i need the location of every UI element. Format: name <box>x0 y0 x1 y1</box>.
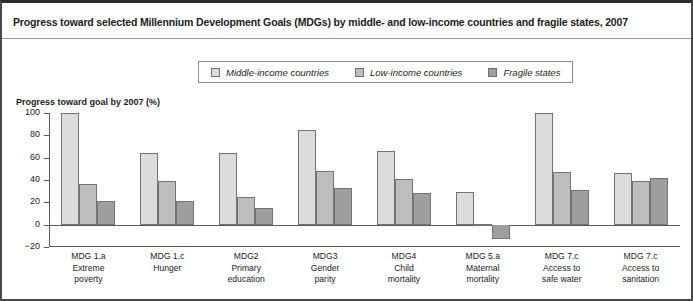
bar-group <box>443 113 522 247</box>
bar <box>571 190 589 225</box>
bar-slot <box>456 113 474 247</box>
legend-label-low-income: Low-income countries <box>370 67 462 78</box>
bar-slot <box>176 113 194 247</box>
category-label-line: mortality <box>365 274 444 286</box>
bar-slot <box>553 113 571 247</box>
y-tick-label: −20 <box>25 241 40 251</box>
bar-slot <box>255 113 273 247</box>
bar-slot <box>61 113 79 247</box>
y-tick: 60 <box>3 158 49 159</box>
bar-slot <box>79 113 97 247</box>
category-label-line: Maternal <box>443 263 522 275</box>
bar <box>614 173 632 224</box>
legend-label-middle-income: Middle-income countries <box>226 67 329 78</box>
bar <box>237 197 255 225</box>
category-label-line: MDG 7.c <box>522 251 601 263</box>
y-tick: −20 <box>3 247 49 248</box>
category-label-line: education <box>207 274 286 286</box>
bar-slot <box>571 113 589 247</box>
title-bar: Progress toward selected Millennium Deve… <box>2 6 691 39</box>
bar-slot <box>377 113 395 247</box>
bar <box>650 178 668 225</box>
bar <box>79 184 97 224</box>
x-axis-category-label: MDG 7.cAccess tosafe water <box>522 251 601 286</box>
category-label-line: MDG 7.c <box>601 251 680 263</box>
legend-item-fragile-states: Fragile states <box>488 67 560 78</box>
bar-slot <box>413 113 431 247</box>
legend-swatch-fragile-states <box>488 68 497 77</box>
x-axis-category-label: MDG2Primaryeducation <box>207 251 286 286</box>
bar-slot <box>97 113 115 247</box>
y-tick-label: 60 <box>30 152 40 162</box>
y-tick-label: 0 <box>35 219 40 229</box>
bar <box>97 201 115 224</box>
bar-slot <box>650 113 668 247</box>
y-tick-mark <box>44 247 49 248</box>
y-tick: 40 <box>3 180 49 181</box>
category-label-line: poverty <box>49 274 128 286</box>
category-label-line: MDG4 <box>365 251 444 263</box>
bar <box>334 188 352 225</box>
bar-slot <box>237 113 255 247</box>
x-axis-category-label: MDG 7.cAccess tosanitation <box>601 251 680 286</box>
bar-slot <box>316 113 334 247</box>
bar-slot <box>298 113 316 247</box>
y-tick: 100 <box>3 113 49 114</box>
category-label-line: safe water <box>522 274 601 286</box>
y-tick: 0 <box>3 225 49 226</box>
bar-slot <box>395 113 413 247</box>
bar-group <box>207 113 286 247</box>
category-label-line: Access to <box>601 263 680 275</box>
plot-area: 100806040200−20 <box>49 113 680 247</box>
bar <box>61 113 79 225</box>
legend-label-fragile-states: Fragile states <box>503 67 560 78</box>
x-axis-category-label: MDG3Genderparity <box>286 251 365 286</box>
bar <box>219 153 237 224</box>
bar <box>377 151 395 225</box>
bar <box>176 201 194 224</box>
y-tick-label: 100 <box>25 107 40 117</box>
bar-group <box>128 113 207 247</box>
bar <box>413 193 431 224</box>
category-label-line: MDG 5.a <box>443 251 522 263</box>
legend-item-middle-income: Middle-income countries <box>211 67 329 78</box>
x-axis-category-label: MDG 5.aMaternalmortality <box>443 251 522 286</box>
bar <box>255 208 273 225</box>
y-tick: 80 <box>3 135 49 136</box>
bar <box>632 181 650 225</box>
chart-figure: Progress toward selected Millennium Deve… <box>0 0 693 301</box>
bar <box>553 172 571 224</box>
bar-group <box>365 113 444 247</box>
category-label-line: sanitation <box>601 274 680 286</box>
chart-legend: Middle-income countries Low-income count… <box>198 61 573 83</box>
bar-group <box>286 113 365 247</box>
bar-group <box>49 113 128 247</box>
legend-item-low-income: Low-income countries <box>355 67 462 78</box>
bar <box>456 192 474 224</box>
bar <box>474 224 492 226</box>
bar-slot <box>535 113 553 247</box>
bar-slot <box>474 113 492 247</box>
x-axis-category-labels: MDG 1.aExtremepovertyMDG 1.cHungerMDG2Pr… <box>49 251 680 299</box>
bar-slot <box>219 113 237 247</box>
bar <box>140 153 158 224</box>
category-label-line: MDG2 <box>207 251 286 263</box>
category-label-line: Hunger <box>128 263 207 275</box>
y-axis-title: Progress toward goal by 2007 (%) <box>16 97 160 107</box>
category-label-line: Access to <box>522 263 601 275</box>
bar-slot <box>632 113 650 247</box>
bar <box>395 179 413 225</box>
x-axis-category-label: MDG 1.cHunger <box>128 251 207 274</box>
category-label-line: MDG 1.c <box>128 251 207 263</box>
category-label-line: Gender <box>286 263 365 275</box>
chart-title: Progress toward selected Millennium Deve… <box>2 16 628 28</box>
category-label-line: parity <box>286 274 365 286</box>
y-tick-label: 80 <box>30 129 40 139</box>
legend-swatch-low-income <box>355 68 364 77</box>
y-tick-label: 40 <box>30 174 40 184</box>
category-label-line: Primary <box>207 263 286 275</box>
bar <box>535 113 553 225</box>
bar <box>298 130 316 225</box>
x-axis-category-label: MDG 1.aExtremepoverty <box>49 251 128 286</box>
category-label-line: MDG 1.a <box>49 251 128 263</box>
